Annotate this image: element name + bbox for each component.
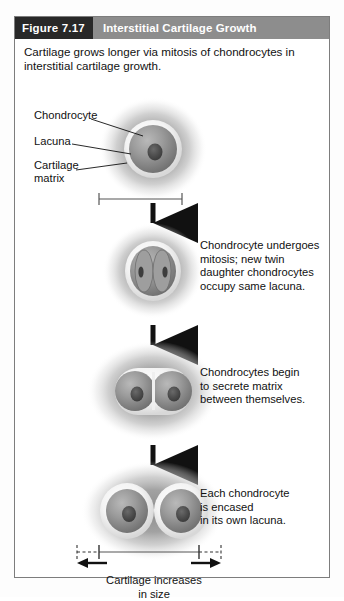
figure-header: Figure 7.17 Interstitial Cartilage Growt… xyxy=(15,17,329,39)
callout-label-lacuna: Lacuna xyxy=(34,135,71,148)
stage-3-caption-line-1: Chondrocytes begin xyxy=(200,366,322,380)
stage-4-caption-line-3: in its own lacuna. xyxy=(200,514,322,528)
stage-2-illustration xyxy=(103,223,203,319)
callout-label-cartilage-matrix-line1: Cartilage xyxy=(34,159,79,171)
figure-number-label: Figure 7.17 xyxy=(15,17,93,39)
callout-label-cartilage-matrix: Cartilage matrix xyxy=(34,159,79,185)
stage-2-caption-line-2: mitosis; new twin xyxy=(200,253,322,267)
growth-label: Cartilage increases in size xyxy=(59,574,249,601)
stage-4-caption: Each chondrocyte is encased in its own l… xyxy=(200,487,322,528)
stage-4-caption-line-1: Each chondrocyte xyxy=(200,487,322,501)
stage-3-caption-line-3: between themselves. xyxy=(200,393,322,407)
callout-label-chondrocyte: Chondrocyte xyxy=(34,109,97,122)
stage-2-caption: Chondrocyte undergoes mitosis; new twin … xyxy=(200,239,322,293)
growth-label-line-2: in size xyxy=(59,588,249,601)
figure-container: Figure 7.17 Interstitial Cartilage Growt… xyxy=(14,16,330,578)
stage-3-caption-line-2: to secrete matrix xyxy=(200,380,322,394)
callout-label-cartilage-matrix-line2: matrix xyxy=(34,172,64,184)
growth-label-line-1: Cartilage increases xyxy=(59,574,249,588)
stage-2-caption-line-3: daughter chondrocytes xyxy=(200,266,322,280)
figure-title: Interstitial Cartilage Growth xyxy=(93,17,329,39)
stage-3-caption: Chondrocytes begin to secrete matrix bet… xyxy=(200,366,322,407)
stage-2-caption-line-4: occupy same lacuna. xyxy=(200,280,322,294)
stage-2-caption-line-1: Chondrocyte undergoes xyxy=(200,239,322,253)
stage-4-caption-line-2: is encased xyxy=(200,501,322,515)
stage-1-illustration xyxy=(99,97,207,201)
